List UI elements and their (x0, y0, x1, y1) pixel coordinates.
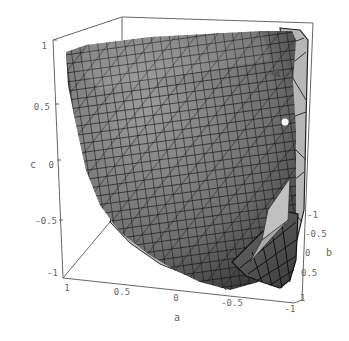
a-tick-0.5: 0.5 (114, 287, 130, 297)
c-tick-neg1: -1 (47, 268, 58, 278)
b-tick-1: 1 (300, 293, 305, 303)
a-tick-1: 1 (64, 283, 69, 293)
b-tick-neg0.5: -0.5 (305, 229, 327, 239)
b-tick-0.5: 0.5 (301, 268, 317, 278)
c-axis-label: c (30, 159, 36, 170)
c-tick-0: 0 (49, 160, 54, 170)
a-axis-label: a (174, 312, 180, 323)
a-tick-0: 0 (173, 293, 178, 303)
b-axis-label: b (326, 247, 332, 258)
c-tick-0.5: 0.5 (34, 102, 50, 112)
a-axis: 1 0.5 0 -0.5 -1 a (64, 283, 295, 323)
a-tick-neg1: -1 (285, 304, 296, 314)
c-tick-1: 1 (42, 41, 47, 51)
c-tick-neg0.5: -0.5 (35, 216, 57, 226)
a-tick-neg0.5: -0.5 (221, 298, 243, 308)
b-tick-neg1: -1 (307, 210, 318, 220)
surface-plot-3d: 1 0.5 0 -0.5 -1 c 1 0.5 0 -0.5 -1 a -1 -… (0, 0, 349, 341)
b-tick-0: 0 (305, 248, 310, 258)
